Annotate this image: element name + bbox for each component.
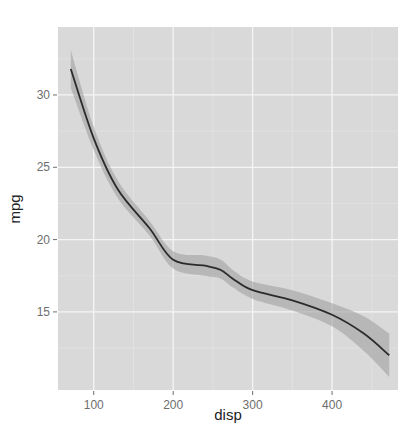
y-tick-label: 30 bbox=[37, 88, 51, 102]
chart: 100200300400 15202530 disp mpg bbox=[0, 0, 420, 448]
y-axis-title: mpg bbox=[6, 194, 23, 223]
y-axis: 15202530 bbox=[37, 88, 57, 319]
x-axis: 100200300400 bbox=[84, 391, 343, 412]
x-tick-label: 100 bbox=[84, 398, 104, 412]
y-tick-label: 20 bbox=[37, 233, 51, 247]
y-tick-label: 15 bbox=[37, 305, 51, 319]
x-axis-title: disp bbox=[214, 406, 242, 423]
y-tick-label: 25 bbox=[37, 160, 51, 174]
x-tick-label: 300 bbox=[243, 398, 263, 412]
x-tick-label: 200 bbox=[163, 398, 183, 412]
x-tick-label: 400 bbox=[322, 398, 342, 412]
